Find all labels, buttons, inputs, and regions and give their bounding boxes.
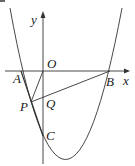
x-axis-label: x <box>123 74 129 87</box>
y-axis-arrow-icon <box>41 11 46 18</box>
point-q-label: Q <box>46 97 55 110</box>
point-p-label: P <box>20 100 28 113</box>
point-b-label: B <box>106 75 114 88</box>
origin-label: O <box>47 57 56 70</box>
y-axis-label: y <box>31 13 37 26</box>
point-c-label: C <box>46 129 55 142</box>
diagram-canvas: y O x A B P Q C <box>0 0 135 166</box>
point-a-label: A <box>13 72 21 85</box>
segment-po <box>31 71 43 102</box>
